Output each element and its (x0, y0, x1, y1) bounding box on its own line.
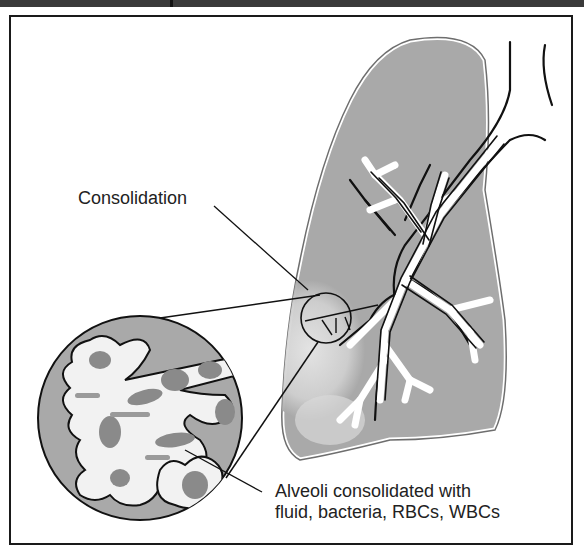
consolidation-pointer (214, 206, 308, 290)
alveoli-label-line2: fluid, bacteria, RBCs, WBCs (275, 502, 500, 523)
magnified-alveoli (38, 316, 250, 520)
alveoli-label-line1: Alveoli consolidated with (275, 481, 500, 502)
consolidation-label: Consolidation (78, 188, 187, 209)
consolidation-area (255, 280, 365, 445)
lung-diagram (0, 0, 584, 555)
alveoli-label: Alveoli consolidated with fluid, bacteri… (275, 481, 500, 523)
